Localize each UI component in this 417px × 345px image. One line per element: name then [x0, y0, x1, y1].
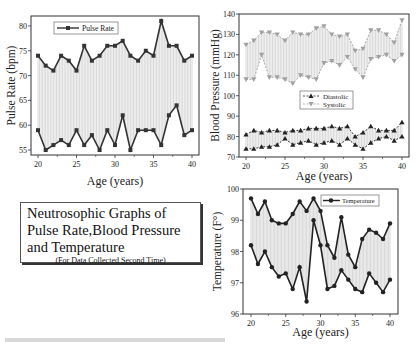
- x-tick-label: 25: [281, 162, 289, 171]
- y-tick-label: 97: [231, 279, 239, 288]
- figure-title-box: Neutrosophic Graphs of Pulse Rate,Blood …: [20, 202, 201, 263]
- x-tick-label: 40: [398, 162, 406, 171]
- y-tick-label: 60: [19, 121, 27, 130]
- y-tick-label: 140: [223, 10, 235, 19]
- x-tick-label: 35: [359, 162, 367, 171]
- x-tick-label: 25: [73, 160, 81, 169]
- figure-title: Neutrosophic Graphs of Pulse Rate,Blood …: [27, 205, 194, 256]
- y-axis-label: Temperature (F°): [211, 212, 224, 292]
- y-tick-label: 65: [19, 96, 27, 105]
- figure-subtitle: (For Data Collected Second Time): [27, 256, 194, 265]
- figure-caption-strip: [5, 338, 225, 342]
- y-tick-label: 110: [223, 71, 235, 80]
- y-axis-label: Pulse Rate (bpm): [5, 45, 18, 125]
- y-axis-label: Blood Pressure (mmHg): [209, 29, 222, 142]
- x-tick-label: 20: [247, 319, 255, 328]
- x-tick-label: 30: [111, 160, 119, 169]
- x-tick-label: 40: [386, 319, 394, 328]
- svg-text:Systolic: Systolic: [323, 101, 346, 109]
- x-tick-label: 35: [351, 319, 359, 328]
- svg-text:Temperature: Temperature: [342, 197, 375, 204]
- y-tick-label: 70: [19, 72, 27, 81]
- y-tick-label: 80: [227, 133, 235, 142]
- x-tick-label: 40: [188, 160, 196, 169]
- x-axis-label: Age (years): [292, 325, 348, 339]
- svg-text:Pulse Rate: Pulse Rate: [82, 24, 115, 33]
- x-axis-label: Age (years): [296, 169, 352, 183]
- y-tick-label: 96: [231, 310, 239, 319]
- y-tick-label: 120: [223, 51, 235, 60]
- y-tick-label: 55: [19, 146, 27, 155]
- y-tick-label: 100: [227, 185, 239, 194]
- temperature-chart: 202530354096979899100Age (years)Temperat…: [205, 183, 417, 345]
- pulse-legend: Pulse Rate: [54, 22, 118, 34]
- svg-text:Diastolic: Diastolic: [323, 93, 348, 101]
- x-tick-label: 35: [150, 160, 158, 169]
- y-tick-label: 130: [223, 30, 235, 39]
- y-tick-label: 75: [19, 47, 27, 56]
- y-tick-label: 70: [227, 153, 235, 162]
- x-axis-label: Age (years): [87, 174, 143, 188]
- x-tick-label: 25: [282, 319, 290, 328]
- y-tick-label: 98: [231, 248, 239, 257]
- neutrosophic-range-lines: [38, 21, 192, 150]
- x-tick-label: 20: [242, 162, 250, 171]
- pulse-rate-chart: 2025303540556065707580Age (years)Pulse R…: [0, 0, 210, 195]
- y-tick-label: 99: [231, 216, 239, 225]
- bp-legend: DiastolicSystolic: [300, 91, 353, 109]
- y-tick-label: 80: [19, 22, 27, 31]
- y-tick-label: 90: [227, 112, 235, 121]
- blood-pressure-chart: 2025303540708090100110120130140Age (year…: [205, 0, 417, 195]
- temperature-legend: Temperature: [321, 195, 379, 206]
- y-tick-label: 100: [223, 92, 235, 101]
- x-tick-label: 20: [34, 160, 42, 169]
